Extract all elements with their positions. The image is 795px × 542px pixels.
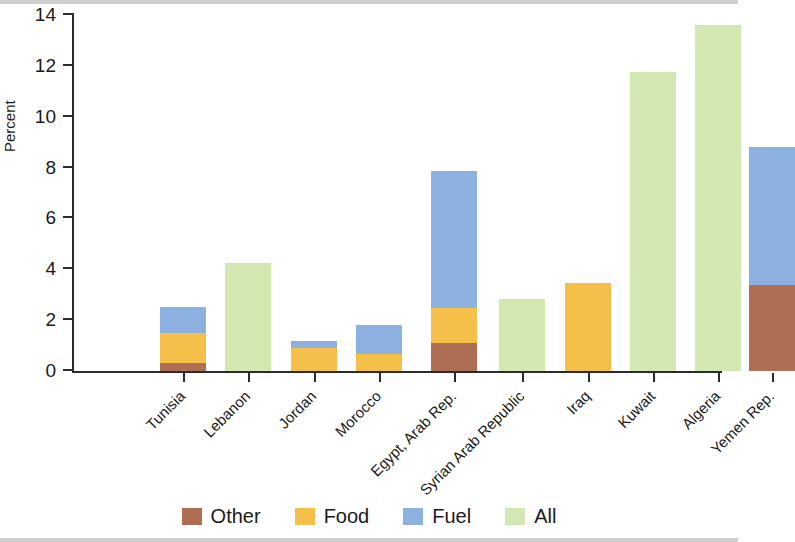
y-tick-2: 2 — [63, 318, 72, 320]
legend-item-all[interactable]: All — [505, 506, 556, 526]
x-tick — [772, 373, 774, 382]
x-tick — [314, 373, 316, 382]
bar-segment-all — [695, 25, 741, 371]
chart-legend: OtherFoodFuelAll — [0, 506, 738, 526]
x-axis-label: Tunisia — [143, 388, 187, 432]
legend-item-food[interactable]: Food — [295, 506, 370, 526]
y-tick-4: 4 — [63, 267, 72, 269]
y-tick-6: 6 — [63, 216, 72, 218]
bar-segment-food — [431, 308, 477, 343]
x-axis-label: Kuwait — [615, 388, 657, 430]
y-tick-8: 8 — [63, 166, 72, 168]
bar-segment-food — [160, 333, 206, 364]
bar-segment-all — [225, 263, 271, 371]
y-tick-label-12: 12 — [35, 55, 56, 74]
bar-segment-food — [356, 354, 402, 371]
y-tick-14: 14 — [63, 13, 72, 15]
bar-stack — [291, 341, 337, 371]
x-tick — [248, 373, 250, 382]
x-tick — [588, 373, 590, 382]
x-tick — [379, 373, 381, 382]
bar-segment-fuel — [356, 325, 402, 354]
y-tick-label-8: 8 — [45, 157, 56, 176]
bar-stack — [749, 147, 795, 371]
x-axis-label: Lebanon — [201, 388, 253, 440]
bar-stack — [565, 283, 611, 371]
legend-swatch-fuel — [403, 508, 423, 525]
y-tick-label-4: 4 — [45, 259, 56, 278]
y-tick-label-14: 14 — [35, 5, 56, 24]
bar-segment-other — [431, 343, 477, 371]
y-tick-10: 10 — [63, 115, 72, 117]
bar-stack — [695, 25, 741, 371]
legend-label: Fuel — [432, 506, 471, 526]
y-tick-label-6: 6 — [45, 208, 56, 227]
y-tick-label-2: 2 — [45, 310, 56, 329]
x-tick — [522, 373, 524, 382]
y-axis-title: Percent — [2, 100, 17, 152]
scan-edge-top — [0, 0, 738, 4]
bar-segment-other — [749, 285, 795, 371]
x-axis-label: Jordan — [275, 388, 318, 431]
bar-segment-food — [565, 283, 611, 371]
x-tick — [454, 373, 456, 382]
bar-segment-all — [630, 72, 676, 371]
bar-stack — [630, 72, 676, 371]
x-axis-line — [72, 371, 722, 373]
y-tick-12: 12 — [63, 64, 72, 66]
bar-stack — [499, 299, 545, 371]
legend-item-other[interactable]: Other — [182, 506, 261, 526]
legend-label: All — [534, 506, 556, 526]
legend-label: Other — [211, 506, 261, 526]
x-axis-label: Algeria — [679, 388, 723, 432]
bar-segment-fuel — [160, 307, 206, 332]
x-tick — [653, 373, 655, 382]
plot-area: 0 2 4 6 8 10 12 14 — [72, 15, 720, 371]
y-tick-label-0: 0 — [45, 361, 56, 380]
bar-stack — [431, 171, 477, 371]
bar-segment-food — [291, 348, 337, 371]
bar-segment-fuel — [291, 341, 337, 348]
bar-stack — [356, 325, 402, 371]
legend-swatch-food — [295, 508, 315, 525]
x-axis-label: Morocco — [332, 388, 383, 439]
legend-item-fuel[interactable]: Fuel — [403, 506, 471, 526]
legend-label: Food — [324, 506, 370, 526]
bar-segment-all — [499, 299, 545, 371]
scan-edge-bottom — [0, 538, 738, 542]
legend-swatch-other — [182, 508, 202, 525]
y-tick-0: 0 — [63, 369, 72, 371]
bar-segment-fuel — [431, 171, 477, 308]
x-tick — [183, 373, 185, 382]
bar-stack — [225, 263, 271, 371]
y-tick-label-10: 10 — [35, 106, 56, 125]
x-axis-label: Iraq — [564, 388, 593, 417]
legend-swatch-all — [505, 508, 525, 525]
x-tick — [718, 373, 720, 382]
bar-segment-other — [160, 363, 206, 371]
bar-segment-fuel — [749, 147, 795, 284]
bar-stack — [160, 307, 206, 371]
